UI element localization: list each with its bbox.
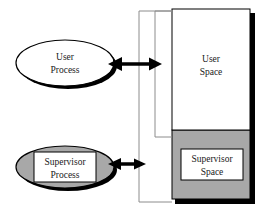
user-space-label-line1: User	[202, 54, 221, 64]
user-process-label-line2: Process	[50, 65, 79, 75]
supervisor-space-label-line1: Supervisor	[191, 154, 233, 164]
diagram-svg: User Space Supervisor Space User Process	[0, 0, 267, 212]
inner-scope-bracket	[155, 11, 172, 137]
supervisor-space-label-line2: Space	[201, 167, 224, 177]
user-process-label-line1: User	[56, 52, 75, 62]
user-space-label-line2: Space	[200, 67, 223, 77]
supervisor-process-label-line2: Process	[50, 170, 79, 180]
diagram-canvas: User Space Supervisor Space User Process	[0, 0, 267, 212]
user-process-ellipse[interactable]	[16, 40, 114, 86]
supervisor-process-label-line1: Supervisor	[44, 157, 86, 167]
